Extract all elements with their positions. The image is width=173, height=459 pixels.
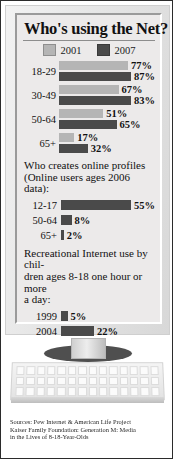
keyboard-key [99,377,107,386]
keyboard-key [47,366,55,375]
chart-row-label: 2004 [23,326,61,337]
bar-line-2007: 83% [59,96,155,106]
keyboard-key [47,387,56,396]
keyboard-key [16,377,25,386]
keyboard-front-edge [11,397,164,403]
chart-row: 2004 22% [23,324,155,339]
keyboard-key [109,377,117,386]
bar-line-2007: 32% [59,144,155,154]
keyboard-key [89,377,97,386]
bar-2001 [59,61,128,70]
keyboard-key [68,377,76,386]
keyboard-row [15,387,159,396]
chart-row: 65+ 17% 32% [23,131,155,155]
bar-value-2007: 32% [91,143,112,154]
keyboard-key [15,387,24,396]
chart-row-label: 50-64 [23,114,59,125]
chart-row-label: 1999 [23,311,61,322]
bar-line-2007: 87% [59,72,155,82]
keyboard-key [37,377,46,386]
bar-value-2007: 83% [134,95,155,106]
bar-2007 [59,72,131,81]
bar-2007 [59,144,88,153]
bar-2001 [59,85,119,94]
chart-three-heading-line3: a day: [24,294,155,306]
keyboard-key [47,377,56,386]
page-title: Who's using the Net? [24,19,155,38]
chart-row-label: 30-49 [23,90,59,101]
chart-row: 50-64 8% [23,213,155,228]
keyboard-key [150,366,159,375]
keyboard-key [130,377,139,386]
bar-value-2001: 51% [106,108,127,119]
chart-row: 30-49 67% 83% [23,83,155,107]
chart-row-label: 65+ [23,138,59,149]
keyboard-key [119,366,127,375]
sources-note: Sources: Pew Internet & American Life Pr… [10,418,166,441]
bar [61,311,68,321]
bar-value: 8% [75,215,91,226]
bar-value: 2% [67,230,83,241]
bar-value: 5% [71,311,87,322]
sources-line-2: Kaiser Family Foundation: Generation M: … [10,426,166,434]
chart-row-label: 50-64 [23,215,61,226]
chart-row-label: 12-17 [23,200,61,211]
keyboard-row [16,366,158,375]
chart-one-age-groups: 18-29 77% 87% 30-49 [23,59,155,155]
bar [61,200,131,210]
bar-2007 [59,120,117,129]
bar-value-2001: 77% [131,60,152,71]
keyboard-key [57,387,66,396]
chart-two-heading-line2: (Online users ages 2006 data): [24,172,155,195]
keyboard-key [89,366,97,375]
keyboard-key [26,387,35,396]
keyboard-key [99,366,107,375]
bar-value: 22% [97,326,118,337]
keyboard-key [89,387,97,396]
chart-three-heading-line2: dren ages 8-18 one hour or more [24,271,155,294]
bar-2001 [59,133,74,142]
keyboard-key [140,366,149,375]
chart-three-heading: Recreational Internet use by chil- dren … [24,248,155,306]
chart-row-bars: 67% 83% [59,85,155,106]
keyboard-key [151,377,160,386]
sources-line-3: in the Lives of 8-18-Year-Olds [10,433,166,441]
keyboard-key [151,387,160,396]
bar-line-2001: 51% [59,109,155,119]
chart-row-label: 65+ [23,230,61,241]
monitor-stand-neck [71,338,106,359]
bar-value: 55% [134,200,155,211]
bar-value-2007: 65% [120,119,141,130]
chart-two-heading-line1: Who creates online profiles [24,160,155,172]
keyboard-key [120,377,129,386]
chart-row-bars: 17% 32% [59,133,155,154]
bar-value-2007: 87% [134,71,155,82]
bar [61,230,64,240]
infographic-frame: Who's using the Net? 2001 2007 18-29 77% [0,0,173,459]
keyboard-key [130,366,139,375]
keyboard-illustration [10,362,165,400]
bar [61,215,72,225]
chart-legend: 2001 2007 [23,44,155,56]
chart-row-bars: 77% 87% [59,61,155,82]
monitor-screen: Who's using the Net? 2001 2007 18-29 77% [15,13,162,324]
bar-value-2001: 67% [122,84,143,95]
chart-row: 1999 5% [23,309,155,324]
legend-swatch-2001 [43,44,56,56]
keyboard-key [109,366,117,375]
title-divider [23,40,155,41]
bar-line-2001: 17% [59,133,155,143]
keyboard-key [109,387,118,396]
keyboard-key [58,366,66,375]
bar-value-2001: 17% [77,132,98,143]
legend-swatch-2007 [97,44,110,56]
bar-2001 [59,109,103,118]
keyboard-key [36,387,45,396]
chart-row: 18-29 77% 87% [23,59,155,83]
keyboard-key [141,387,150,396]
chart-row-label: 18-29 [23,66,59,77]
keyboard-key [68,366,76,375]
bar [61,326,94,336]
bar-2007 [59,96,131,105]
chart-two-heading: Who creates online profiles (Online user… [24,160,155,195]
